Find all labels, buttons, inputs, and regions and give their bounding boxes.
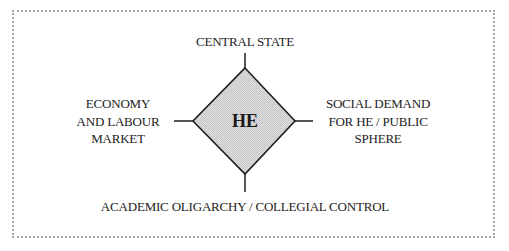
node-economy-labour-market: ECONOMY AND LABOUR MARKET xyxy=(66,95,170,148)
node-line: SOCIAL DEMAND xyxy=(314,95,442,113)
node-academic-oligarchy: ACADEMIC OLIGARCHY / COLLEGIAL CONTROL xyxy=(70,198,420,216)
node-line: SPHERE xyxy=(314,130,442,148)
node-line: FOR HE / PUBLIC xyxy=(314,113,442,131)
node-line: AND LABOUR xyxy=(66,113,170,131)
node-line: ECONOMY xyxy=(66,95,170,113)
center-label-he: HE xyxy=(215,110,275,132)
node-social-demand: SOCIAL DEMAND FOR HE / PUBLIC SPHERE xyxy=(314,95,442,148)
node-line: ACADEMIC OLIGARCHY / COLLEGIAL CONTROL xyxy=(70,198,420,216)
node-line: CENTRAL STATE xyxy=(188,33,302,51)
node-line: MARKET xyxy=(66,130,170,148)
node-central-state: CENTRAL STATE xyxy=(188,33,302,51)
